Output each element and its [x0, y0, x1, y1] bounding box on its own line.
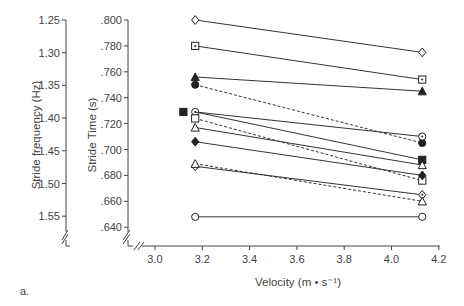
- y-axis-title: Stride Time (s): [86, 97, 98, 172]
- panel-label: a.: [20, 285, 29, 297]
- series-line-dotted-square: [195, 46, 422, 80]
- y-tick-label: .800: [101, 14, 122, 26]
- y-tick-label: .660: [101, 195, 122, 207]
- x-tick-label: 4.2: [431, 253, 446, 265]
- circle-dot-marker: [419, 133, 426, 140]
- x-tick-label: 3.8: [337, 253, 352, 265]
- y-tick-label: .700: [101, 144, 122, 156]
- y-tick-label: .640: [101, 221, 122, 233]
- diamond-open-marker: [192, 16, 199, 25]
- y-tick-label: .680: [101, 169, 122, 181]
- y-tick-label: .760: [101, 66, 122, 78]
- square-open-marker: [192, 115, 199, 122]
- x-tick-label: 4.0: [384, 253, 399, 265]
- x-tick-label: 3.4: [242, 253, 257, 265]
- y2-tick-label: 1.25: [39, 14, 60, 26]
- x-axis-title: Velocity (m • s⁻¹): [255, 276, 341, 288]
- circle-open-marker: [192, 213, 199, 220]
- axes: 1.251.301.351.401.451.501.55Stride frequ…: [30, 14, 446, 288]
- y2-tick-label: 1.55: [39, 210, 60, 222]
- y-tick-label: .720: [101, 118, 122, 130]
- series-line-open-diamond: [195, 20, 422, 52]
- circle-filled-marker: [192, 81, 199, 88]
- square-filled-marker: [180, 108, 187, 115]
- diamond-open-marker: [419, 48, 426, 57]
- x-tick-label: 3.6: [289, 253, 304, 265]
- data-series: [180, 16, 427, 221]
- x-tick-label: 3.0: [147, 253, 162, 265]
- series-line-open-triangle-2: [195, 164, 422, 202]
- stride-chart: 1.251.301.351.401.451.501.55Stride frequ…: [0, 0, 464, 306]
- square-dot-marker: [419, 76, 426, 83]
- series-line-filled-circle: [195, 85, 422, 143]
- series-line-open-square: [195, 118, 422, 180]
- y2-axis-title: Stride frequency (Hz): [30, 81, 42, 190]
- y2-tick-label: 1.30: [39, 47, 60, 59]
- y-tick-label: .780: [101, 40, 122, 52]
- diamond-filled-marker: [192, 137, 199, 146]
- circle-open-marker: [419, 213, 426, 220]
- y-tick-label: .740: [101, 92, 122, 104]
- square-dot-marker: [192, 42, 199, 49]
- series-line-filled-triangle: [195, 77, 422, 91]
- triangle-open-marker: [191, 123, 199, 131]
- series-line-filled-square: [195, 112, 422, 160]
- x-tick-label: 3.2: [195, 253, 210, 265]
- triangle-open-marker: [191, 160, 199, 168]
